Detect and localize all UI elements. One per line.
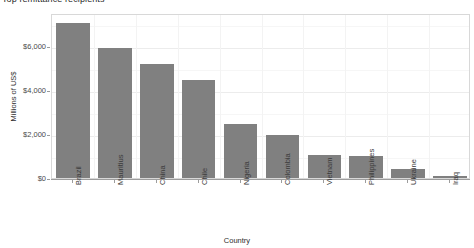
chart-title-clipped: Top remittance recipients [0,0,474,8]
x-tick-label-chile: Chile [201,168,209,185]
x-tick-label-iraq: Iraq [452,172,460,185]
y-tick-label: $2,000 [2,131,46,139]
x-tick-mark [407,180,408,183]
gridline-vertical [387,15,388,178]
x-tick-mark [198,180,199,183]
y-tick-label: $0 [2,175,46,183]
bar-mauritius[interactable] [98,48,132,178]
x-tick-label-ukraine: Ukraine [410,159,418,185]
y-tick-mark [47,179,50,180]
plot-panel [51,14,470,179]
gridline-vertical [220,15,221,178]
gridline-vertical [178,15,179,178]
bar-chart: Top remittance recipients Millions of US… [0,0,474,248]
y-tick-mark [47,91,50,92]
gridline-minor [52,26,469,27]
bar-nigeria[interactable] [224,124,258,178]
gridline-vertical [303,15,304,178]
x-tick-mark [281,180,282,183]
x-tick-label-mauritius: Mauritius [117,155,125,185]
x-tick-label-vietnam: Vietnam [326,158,334,185]
y-tick-mark [47,135,50,136]
gridline-vertical [429,15,430,178]
gridline-vertical [345,15,346,178]
y-tick-mark [47,47,50,48]
x-tick-label-china: China [159,165,167,185]
bar-china[interactable] [140,64,174,178]
x-tick-label-philippines: Philippines [368,149,376,185]
x-tick-mark [365,180,366,183]
gridline-vertical [136,15,137,178]
y-tick-label: $6,000 [2,43,46,51]
x-tick-mark [114,180,115,183]
gridline-vertical [94,15,95,178]
x-tick-mark [449,180,450,183]
x-tick-label-colombia: Colombia [284,153,292,185]
bar-brazil[interactable] [56,23,90,178]
x-tick-mark [240,180,241,183]
x-tick-label-brazil: Brazil [75,166,83,185]
x-tick-mark [72,180,73,183]
x-tick-label-nigeria: Nigeria [243,161,251,185]
bar-chile[interactable] [182,80,216,178]
y-axis-ticks: $0$2,000$4,000$6,000 [0,0,46,248]
x-axis-title: Country [0,236,474,245]
y-tick-label: $4,000 [2,87,46,95]
x-tick-mark [156,180,157,183]
x-tick-mark [323,180,324,183]
gridline-vertical [262,15,263,178]
